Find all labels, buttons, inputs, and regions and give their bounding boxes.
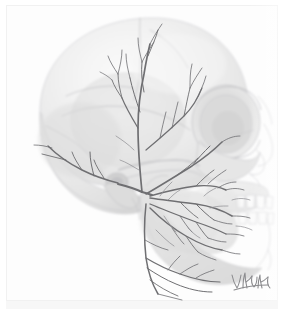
edge-fade bbox=[248, 5, 278, 301]
plate-bottom-edge bbox=[6, 301, 278, 309]
anatomical-figure-plate: Lateral view of human skull with facial … bbox=[0, 0, 284, 315]
skull-facial-nerve-illustration: V. Kuhn bbox=[0, 0, 284, 315]
